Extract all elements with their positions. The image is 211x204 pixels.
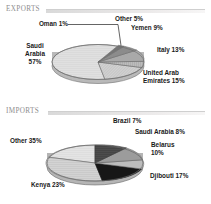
- oman-leader-line-drop: [118, 25, 121, 46]
- imports-pie-chart: [0, 102, 211, 204]
- infographic-page: EXPORTS: [0, 0, 211, 204]
- exports-label-oman: Oman 1%: [22, 20, 68, 27]
- imports-pie-slices: [46, 145, 144, 181]
- exports-label-uae-line1: United Arab: [143, 69, 179, 76]
- exports-label-saudi-line3: 57%: [14, 58, 56, 65]
- exports-label-other: Other 5%: [115, 15, 143, 22]
- imports-label-kenya: Kenya 23%: [31, 181, 65, 188]
- exports-pie-slices: [52, 44, 144, 79]
- imports-label-belarus-line2: 10%: [151, 149, 164, 156]
- imports-label-other: Other 35%: [10, 137, 42, 144]
- imports-label-saudi: Saudi Arabia 8%: [135, 128, 185, 135]
- imports-label-belarus-line1: Belarus: [151, 141, 174, 148]
- imports-section: IMPORTS: [0, 102, 211, 203]
- exports-section: EXPORTS: [0, 0, 211, 101]
- exports-label-saudi-line2: Arabia: [14, 50, 56, 57]
- imports-label-djibouti: Djibouti 17%: [150, 172, 188, 179]
- imports-label-brazil: Brazil 7%: [113, 117, 141, 124]
- exports-label-uae-line2: Emirates 15%: [143, 77, 185, 84]
- exports-label-italy: Italy 13%: [157, 46, 184, 53]
- exports-label-yemen: Yemen 9%: [131, 24, 163, 31]
- exports-label-saudi-line1: Saudi: [14, 42, 56, 49]
